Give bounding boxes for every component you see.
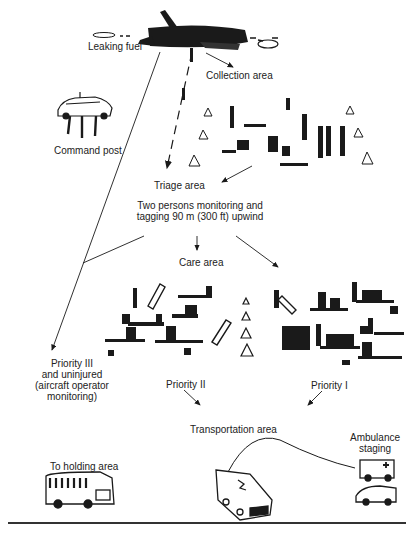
priority3-label: Priority III and uninjured (aircraft ope… (22, 358, 122, 402)
cones-divider-illustration (241, 298, 253, 356)
bottom-separator-rule (8, 522, 406, 524)
ambulance-staging-line2: staging (345, 443, 405, 454)
triage-note-line1: Two persons monitoring and (120, 200, 280, 211)
priority2-arrow (184, 390, 200, 405)
priority1-arrow (308, 391, 322, 405)
transportation-area-label: Transportation area (190, 424, 277, 435)
collection-area-label: Collection area (206, 70, 273, 81)
priority3-line2: and uninjured (22, 369, 122, 380)
staging-ambulances-illustration (356, 460, 396, 505)
transport-ambulance-illustration (216, 470, 272, 520)
collection-arrow (206, 53, 233, 67)
care-area-right-illustration (274, 282, 404, 365)
ambulance-staging-line1: Ambulance (345, 432, 405, 443)
priority3-line4: monitoring) (22, 391, 122, 402)
triage-note-line2: tagging 90 m (300 ft) upwind (120, 211, 280, 222)
command-post-illustration (58, 92, 112, 138)
triage-arrow (222, 166, 252, 182)
priority1-label: Priority I (311, 380, 348, 391)
triage-area-label: Triage area (154, 180, 205, 191)
care-area-label: Care area (179, 257, 223, 268)
holding-area-label: To holding area (50, 461, 118, 472)
priority2-label: Priority II (166, 379, 205, 390)
priority3-line1: Priority III (22, 358, 122, 369)
priority3-line3: (aircraft operator (22, 380, 122, 391)
care-area-left-illustration (105, 284, 231, 356)
leaking-fuel-label: Leaking fuel (88, 41, 142, 52)
collection-area-illustration (189, 98, 373, 166)
command-post-label: Command post (54, 145, 122, 156)
priority1-care-arrow (236, 236, 278, 267)
triage-note: Two persons monitoring and tagging 90 m … (120, 200, 280, 222)
ambulance-route-curve (228, 438, 355, 472)
bus-illustration (46, 472, 114, 508)
ambulance-staging-label: Ambulance staging (345, 432, 405, 454)
evacuation-path-arrow (167, 52, 192, 168)
